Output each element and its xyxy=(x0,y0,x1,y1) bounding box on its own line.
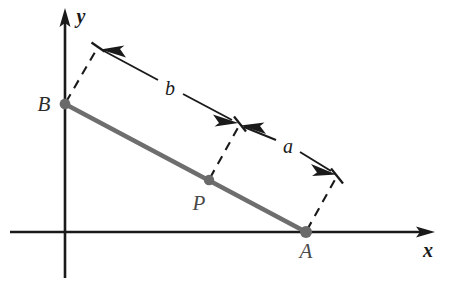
dimension-b-line-right xyxy=(183,94,232,120)
axes-group xyxy=(10,8,435,278)
segment-ba xyxy=(65,104,306,232)
extension-line-from-p xyxy=(210,124,240,178)
point-marker-b xyxy=(60,99,71,110)
extension-line-from-b xyxy=(66,47,98,102)
segment-group xyxy=(60,99,312,238)
dimension-label-b: b xyxy=(165,78,175,98)
dimension-a-mid-tick xyxy=(234,117,246,132)
geometry-figure: B P A b a y x xyxy=(0,0,449,295)
dimension-b-line-left xyxy=(104,51,158,80)
y-axis-label: y xyxy=(77,6,86,26)
x-axis-label: x xyxy=(423,240,433,260)
point-label-p: P xyxy=(193,193,206,214)
dimension-label-a: a xyxy=(283,136,293,156)
dimension-a-end-tick xyxy=(331,169,343,184)
point-marker-p xyxy=(204,175,214,185)
extension-line-from-a xyxy=(307,176,337,230)
dimension-b-end-tick xyxy=(92,43,105,52)
point-marker-a xyxy=(300,226,312,238)
point-label-b: B xyxy=(38,94,51,115)
point-label-a: A xyxy=(300,241,313,262)
figure-canvas xyxy=(0,0,449,295)
